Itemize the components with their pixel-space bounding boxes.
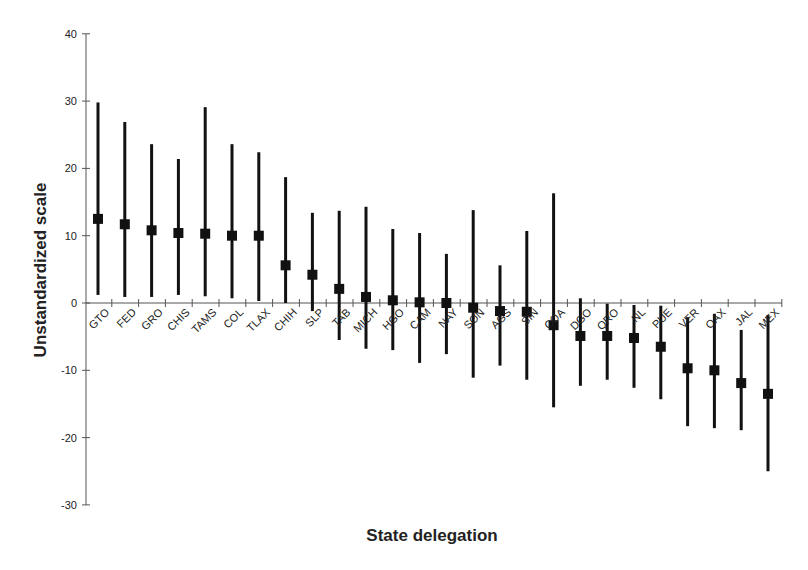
category-label: CHIS [165, 306, 192, 333]
estimate-marker [93, 214, 103, 224]
estimate-marker [281, 260, 291, 270]
y-tick-label: 20 [65, 162, 77, 174]
estimate-marker [736, 378, 746, 388]
y-tick-label: -10 [61, 364, 77, 376]
category-label: TAMS [189, 306, 219, 336]
x-axis [86, 299, 782, 307]
y-axis: 403020100-10-20-30 [61, 28, 90, 511]
estimate-marker [388, 295, 398, 305]
category-label: FED [114, 306, 138, 330]
category-label: NAY [436, 305, 460, 329]
estimate-marker [254, 231, 264, 241]
estimate-marker [120, 219, 130, 229]
estimate-marker [200, 229, 210, 239]
category-label: JAL [733, 306, 755, 328]
estimate-marker [683, 363, 693, 373]
estimate-marker [334, 284, 344, 294]
estimate-marker [575, 331, 585, 341]
estimate-marker [709, 365, 719, 375]
estimate-marker [227, 231, 237, 241]
category-label: GRO [139, 306, 166, 333]
y-tick-label: -20 [61, 432, 77, 444]
category-label: TAB [330, 306, 353, 329]
category-label: CHIH [272, 306, 300, 334]
estimate-marker [763, 389, 773, 399]
category-labels: GTOFEDGROCHISTAMSCOLTLAXCHIHSLPTABMICHHG… [86, 305, 782, 335]
estimate-marker [602, 331, 612, 341]
y-tick-label: 10 [65, 230, 77, 242]
category-label: TLAX [244, 305, 272, 333]
y-tick-label: 0 [71, 297, 77, 309]
category-label: SLP [303, 306, 326, 329]
confidence-intervals [98, 102, 768, 471]
y-tick-label: 40 [65, 28, 77, 40]
estimate-marker [361, 292, 371, 302]
estimate-marker [629, 333, 639, 343]
y-tick-label: -30 [61, 499, 77, 511]
estimate-marker [415, 297, 425, 307]
category-label: NL [629, 306, 647, 324]
estimate-marker [173, 228, 183, 238]
x-axis-title: State delegation [366, 526, 497, 545]
category-label: COL [221, 306, 245, 330]
y-axis-title: Unstandardized scale [31, 183, 50, 358]
category-label: GTO [86, 306, 112, 332]
y-tick-label: 30 [65, 95, 77, 107]
error-bar-chart: 403020100-10-20-30 GTOFEDGROCHISTAMSCOLT… [0, 0, 808, 570]
estimate-marker [307, 270, 317, 280]
estimate-marker [147, 225, 157, 235]
estimate-marker [656, 342, 666, 352]
